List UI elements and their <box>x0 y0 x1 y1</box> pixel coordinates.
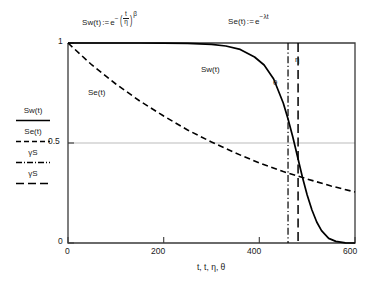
x-tick-label-400: 400 <box>247 246 261 256</box>
curve-label-se: Se(t) <box>88 88 105 97</box>
x-axis-label: t, t, η, θ <box>197 262 225 272</box>
x-tick-label-200: 200 <box>151 246 165 256</box>
y-tick-label-1: 1 <box>58 36 63 46</box>
curve-label-sw: Sw(t) <box>201 65 220 74</box>
x-tick-label-0: 0 <box>65 246 70 256</box>
vline-label-theta: θ <box>273 78 277 87</box>
y-tick-label-0point5: 0.5 <box>48 136 60 146</box>
y-axis-ticks <box>68 43 74 243</box>
y-tick-label-0: 0 <box>58 236 63 246</box>
x-axis-ticks <box>68 237 355 243</box>
vline-label-eta: η <box>295 55 299 64</box>
chart-figure: Sw(t):=e−(tη)β Se(t):=e−λt Sw(t) Se(t) γ… <box>0 0 377 285</box>
x-tick-label-600: 600 <box>343 246 357 256</box>
